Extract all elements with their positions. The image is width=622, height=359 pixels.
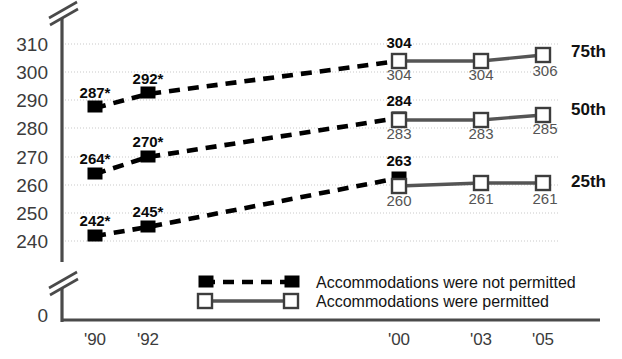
y-tick-290: 290 [16, 90, 48, 111]
x-tick-03: '03 [470, 330, 492, 349]
y-tick-310: 310 [16, 34, 48, 55]
datalabel-75th-05: 306 [532, 62, 557, 79]
y-tick-240: 240 [16, 231, 48, 252]
band-label-25th: 25th [571, 172, 606, 191]
datalabel-50th-00-bold: 284 [386, 92, 412, 109]
legend-marker-filled-square-left [199, 276, 213, 287]
legend-marker-filled-square-right [285, 276, 299, 287]
datalabel-50th-03: 283 [468, 125, 493, 142]
datalabel-50th-92: 270* [133, 133, 164, 150]
x-tick-05: '05 [532, 330, 554, 349]
marker-25th-permitted-05 [536, 176, 550, 190]
legend-label-permitted: Accommodations were permitted [316, 293, 549, 310]
marker-25th-permitted-00 [392, 179, 406, 193]
marker-25th-not-permitted-92 [141, 221, 155, 232]
y-tick-0: 0 [37, 305, 48, 326]
datalabel-75th-00-bold: 304 [386, 34, 412, 51]
datalabel-75th-90: 287* [80, 84, 111, 101]
datalabel-75th-00-light: 304 [386, 66, 411, 83]
marker-25th-permitted-03 [474, 176, 488, 190]
y-axis-tick-labels: 310 300 290 280 270 260 250 240 0 [16, 34, 48, 326]
marker-75th-not-permitted-90 [88, 101, 102, 112]
y-tick-300: 300 [16, 62, 48, 83]
band-label-75th: 75th [571, 42, 606, 61]
x-tick-00: '00 [388, 330, 410, 349]
marker-50th-not-permitted-90 [88, 168, 102, 179]
marker-75th-not-permitted-92 [141, 87, 155, 98]
y-tick-260: 260 [16, 175, 48, 196]
legend-item-permitted[interactable]: Accommodations were permitted [198, 293, 549, 310]
series-50th: 264* 270* 284 283 283 285 50th [80, 92, 606, 179]
datalabel-25th-05: 261 [532, 190, 557, 207]
legend-label-not-permitted: Accommodations were not permitted [316, 274, 576, 291]
series-25th: 242* 245* 263 260 261 261 25th [80, 152, 606, 241]
chart-container: 310 300 290 280 270 260 250 240 0 '90 '9… [0, 0, 622, 359]
series-25th-permitted-line [399, 183, 543, 186]
legend-marker-open-square-right [284, 294, 298, 308]
x-tick-92: '92 [137, 330, 159, 349]
band-label-50th: 50th [571, 100, 606, 119]
y-tick-250: 250 [16, 203, 48, 224]
marker-50th-not-permitted-92 [141, 151, 155, 162]
datalabel-25th-00-light: 260 [386, 192, 411, 209]
datalabel-25th-92: 245* [133, 203, 164, 220]
marker-75th-permitted-05 [536, 48, 550, 62]
datalabel-25th-00-bold: 263 [386, 152, 411, 169]
datalabel-75th-92: 292* [133, 70, 164, 87]
legend-marker-open-square-left [198, 294, 212, 308]
datalabel-50th-05: 285 [532, 120, 557, 137]
x-tick-90: '90 [84, 330, 106, 349]
datalabel-25th-90: 242* [80, 212, 111, 229]
datalabel-50th-00-light: 283 [386, 125, 411, 142]
y-tick-270: 270 [16, 147, 48, 168]
y-tick-280: 280 [16, 118, 48, 139]
marker-25th-not-permitted-90 [88, 230, 102, 241]
series-75th-permitted-line [399, 55, 543, 61]
datalabel-25th-03: 261 [468, 190, 493, 207]
legend: Accommodations were not permitted Accomm… [198, 274, 576, 310]
series-50th-permitted-line [399, 115, 543, 120]
x-axis-tick-labels: '90 '92 '00 '03 '05 [84, 330, 554, 349]
datalabel-50th-90: 264* [80, 150, 111, 167]
datalabel-75th-03: 304 [468, 66, 493, 83]
legend-item-not-permitted[interactable]: Accommodations were not permitted [199, 274, 576, 291]
chart-svg: 310 300 290 280 270 260 250 240 0 '90 '9… [0, 0, 622, 359]
